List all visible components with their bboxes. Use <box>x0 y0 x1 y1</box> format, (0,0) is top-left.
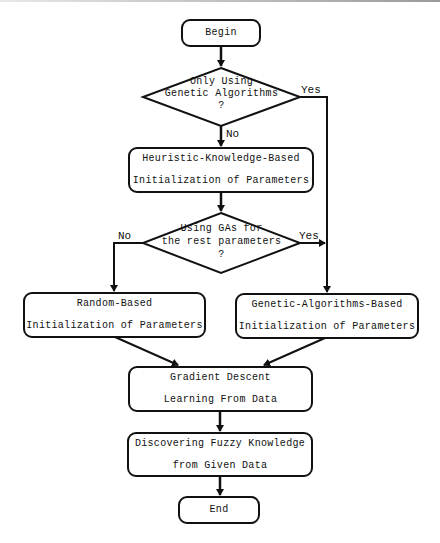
random-node: Random-Based Initialization of Parameter… <box>24 293 205 337</box>
heuristic-line-1: Heuristic-Knowledge-Based <box>142 148 300 170</box>
arrow-decision1-yes <box>300 97 327 292</box>
gradient-node: Gradient Descent Learning From Data <box>129 367 312 411</box>
decision2-line-3: ? <box>218 248 224 261</box>
arrow-decision2-no <box>114 243 143 291</box>
decision2-line-2: the rest parameters <box>162 235 282 248</box>
heuristic-node: Heuristic-Knowledge-Based Initialization… <box>129 148 313 192</box>
decision2-yes-label: Yes <box>299 230 319 242</box>
end-label: End <box>210 499 229 521</box>
discover-node: Discovering Fuzzy Knowledge from Given D… <box>128 433 312 476</box>
arrow-genetic-to-gradient <box>264 338 325 365</box>
decision2-line-1: Using GAs for <box>181 222 263 235</box>
decision2-no-label: No <box>118 230 131 242</box>
decision1-line-1: Only Using <box>190 76 253 88</box>
decision1-no-label: No <box>226 128 239 140</box>
discover-line-1: Discovering Fuzzy Knowledge <box>135 433 305 455</box>
genetic-node: Genetic-Algorithms-Based Initialization … <box>236 294 418 338</box>
heuristic-line-2: Initialization of Parameters <box>133 170 309 192</box>
decision1-line-3: ? <box>218 100 224 112</box>
arrow-random-to-gradient <box>115 337 178 365</box>
discover-line-2: from Given Data <box>173 455 268 477</box>
begin-label: Begin <box>205 22 237 44</box>
genetic-line-2: Initialization of Parameters <box>239 316 415 338</box>
decision1-yes-label: Yes <box>301 84 321 96</box>
gradient-line-2: Learning From Data <box>164 389 277 411</box>
begin-node: Begin <box>182 20 260 46</box>
genetic-line-1: Genetic-Algorithms-Based <box>251 294 402 316</box>
decision1-line-2: Genetic Algorithms <box>165 88 278 100</box>
end-node: End <box>179 497 259 523</box>
decision1-node: Only Using Genetic Algorithms ? <box>143 76 300 112</box>
random-line-1: Random-Based <box>77 293 153 315</box>
gradient-line-1: Gradient Descent <box>170 367 271 389</box>
random-line-2: Initialization of Parameters <box>26 315 202 337</box>
decision2-node: Using GAs for the rest parameters ? <box>143 222 300 261</box>
